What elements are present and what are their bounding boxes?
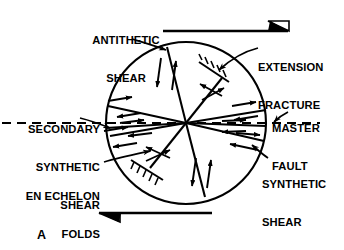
extension-fracture-upper [186, 78, 224, 123]
label-secondary-synthetic-shear-line1: SECONDARY [4, 123, 100, 136]
synthetic-shear-upper [108, 97, 266, 123]
shear-couple-top-arrow [163, 21, 289, 31]
label-en-echelon-folds: EN ECHELON FOLDS [2, 165, 100, 250]
label-synthetic-shear: SYNTHETIC SHEAR [262, 153, 344, 241]
panel-letter: A [37, 228, 46, 242]
label-en-echelon-folds-line1: EN ECHELON [2, 190, 100, 203]
label-master-fault-line1: MASTER [272, 122, 344, 135]
en-echelon-fold-upper [199, 54, 229, 82]
label-synthetic-shear-line2: SHEAR [262, 216, 344, 229]
label-en-echelon-folds-line2: FOLDS [2, 228, 100, 241]
antithetic-shear-lower [186, 123, 211, 197]
en-echelon-fold-lower [131, 160, 163, 185]
label-antithetic-shear-line2: SHEAR [78, 72, 174, 85]
label-antithetic-shear-line1: ANTITHETIC [78, 34, 174, 47]
label-synthetic-shear-line1: SYNTHETIC [262, 178, 344, 191]
label-antithetic-shear: ANTITHETIC SHEAR [78, 9, 174, 97]
label-extension-fracture-line1: EXTENSION [258, 61, 344, 74]
shear-couple-bottom-arrow [99, 213, 212, 222]
